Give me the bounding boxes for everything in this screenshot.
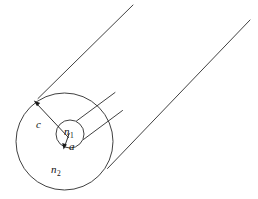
core-radius-arrow-head: [62, 143, 67, 150]
cylinder-lower-generator-line: [108, 20, 251, 169]
label-cladding-index-subscript: 2: [57, 169, 61, 178]
fiber-diagram-svg: c n1 a n2: [0, 0, 258, 199]
label-core-index: n1: [64, 125, 74, 140]
label-cladding-radius: c: [36, 118, 41, 130]
cladding-circle: [16, 93, 113, 190]
core-lower-generator-line: [84, 111, 123, 140]
figure-canvas: c n1 a n2: [0, 0, 258, 199]
cylinder-upper-generator-line: [38, 5, 133, 99]
label-core-index-subscript: 1: [70, 131, 74, 140]
label-core-radius: a: [69, 140, 75, 152]
label-cladding-index: n2: [51, 163, 61, 178]
